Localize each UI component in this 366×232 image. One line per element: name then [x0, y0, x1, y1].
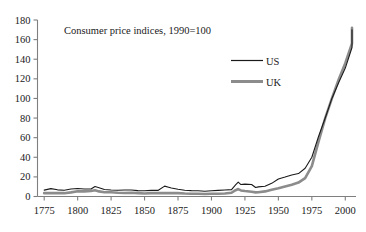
x-tick-label: 1975	[301, 205, 322, 216]
legend-label-uk: UK	[266, 77, 282, 88]
x-tick-label: 1950	[268, 205, 289, 216]
price-indices-line-chart: 020406080100120140160180 177518001825185…	[0, 0, 366, 232]
y-tick-label: 180	[15, 15, 31, 26]
y-tick-label: 140	[15, 54, 31, 65]
y-tick-label: 0	[25, 191, 30, 202]
x-tick-label: 1925	[234, 205, 255, 216]
y-tick-label: 40	[20, 152, 31, 163]
x-tick-label: 1900	[201, 205, 222, 216]
y-tick-label: 80	[20, 113, 31, 124]
x-tick-label: 1875	[168, 205, 189, 216]
chart-container: 020406080100120140160180 177518001825185…	[0, 0, 366, 232]
x-tick-label: 1825	[101, 205, 122, 216]
y-tick-label: 60	[20, 132, 31, 143]
chart-title: Consumer price indices, 1990=100	[64, 25, 211, 36]
legend-label-us: US	[266, 56, 280, 67]
x-tick-label: 1800	[67, 205, 88, 216]
y-tick-label: 20	[20, 171, 31, 182]
x-tick-label: 1850	[134, 205, 155, 216]
x-tick-label: 2000	[335, 205, 356, 216]
x-tick-label: 1775	[34, 205, 55, 216]
y-tick-label: 100	[15, 93, 31, 104]
y-tick-label: 160	[15, 34, 31, 45]
y-tick-label: 120	[15, 73, 31, 84]
